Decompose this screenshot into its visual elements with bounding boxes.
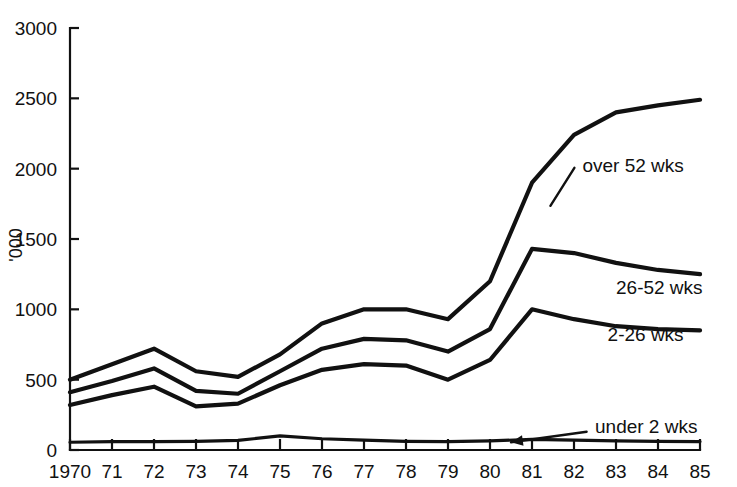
y-axis-title-text: '000 bbox=[6, 228, 26, 261]
x-tick-label: 80 bbox=[479, 461, 500, 482]
x-tick-label: 79 bbox=[437, 461, 458, 482]
y-tick-label: 0 bbox=[46, 440, 57, 461]
chart-container: 0500100015002000250030001970717273747576… bbox=[0, 0, 737, 487]
y-tick-label: 1000 bbox=[15, 299, 57, 320]
chart-tick-labels: 0500100015002000250030001970717273747576… bbox=[15, 18, 711, 482]
series-label-over-52-wks: over 52 wks bbox=[582, 155, 683, 176]
x-tick-label: 75 bbox=[269, 461, 290, 482]
x-tick-label: 73 bbox=[185, 461, 206, 482]
x-tick-label: 77 bbox=[353, 461, 374, 482]
x-tick-label: 74 bbox=[227, 461, 249, 482]
x-tick-label: 82 bbox=[563, 461, 584, 482]
y-axis-title: '000 bbox=[6, 228, 26, 261]
x-tick-label: 71 bbox=[101, 461, 122, 482]
x-tick-label: 83 bbox=[605, 461, 626, 482]
x-tick-label: 78 bbox=[395, 461, 416, 482]
series-line-2-26-wks bbox=[70, 309, 700, 406]
y-tick-label: 2000 bbox=[15, 159, 57, 180]
series-line-26-52-wks bbox=[70, 249, 700, 394]
over-52-wks-leader-line bbox=[550, 168, 574, 206]
x-tick-label: 84 bbox=[647, 461, 669, 482]
x-tick-label: 1970 bbox=[49, 461, 91, 482]
series-label-26-52-wks: 26-52 wks bbox=[616, 277, 703, 298]
y-tick-label: 2500 bbox=[15, 88, 57, 109]
x-tick-label: 85 bbox=[689, 461, 710, 482]
series-label-under-2-wks: under 2 wks bbox=[595, 416, 697, 437]
line-chart: 0500100015002000250030001970717273747576… bbox=[0, 0, 737, 487]
x-tick-label: 81 bbox=[521, 461, 542, 482]
chart-series-lines bbox=[70, 100, 700, 443]
chart-series-labels: over 52 wks26-52 wks2-26 wksunder 2 wks bbox=[511, 155, 703, 446]
series-label-2-26-wks: 2-26 wks bbox=[608, 324, 684, 345]
chart-axes bbox=[70, 28, 700, 450]
y-tick-label: 500 bbox=[25, 370, 57, 391]
x-tick-label: 72 bbox=[143, 461, 164, 482]
y-tick-label: 3000 bbox=[15, 18, 57, 39]
x-tick-label: 76 bbox=[311, 461, 332, 482]
